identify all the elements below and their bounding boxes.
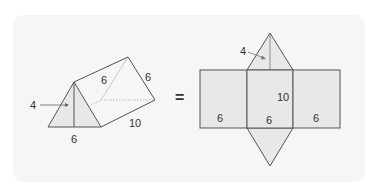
prism-label-height: 4: [30, 99, 36, 111]
net-label-right-width: 6: [313, 112, 319, 124]
net-label-middle-width: 6: [266, 114, 272, 126]
prism-label-base: 6: [71, 133, 77, 145]
net-bottom-triangle: [247, 128, 293, 166]
prism-label-slant-front: 6: [101, 74, 107, 86]
net-label-triangle-height: 4: [240, 45, 246, 57]
diagram-canvas: 4 6 6 6 10 = 4 10 6 6 6: [0, 0, 377, 190]
net-left-rectangle: [200, 70, 247, 128]
net-label-length: 10: [277, 91, 289, 103]
prism-bottom-edge: [101, 100, 155, 127]
equals-sign: =: [175, 89, 184, 106]
prism-net: 4 10 6 6 6: [200, 33, 340, 166]
triangular-prism: 4 6 6 6 10: [30, 57, 155, 145]
prism-label-length: 10: [129, 117, 141, 129]
prism-label-slant-back: 6: [145, 71, 151, 83]
net-label-left-width: 6: [217, 112, 223, 124]
